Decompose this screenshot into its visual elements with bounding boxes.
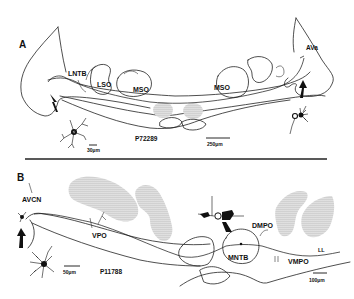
ll-label: LL xyxy=(318,247,325,253)
scale-label-a-section: 250µm xyxy=(207,141,223,147)
neuron-drawing-mntb-projection xyxy=(198,196,244,220)
stippled-region-2 xyxy=(135,185,172,241)
panel-b-leader-line xyxy=(29,183,32,193)
stippled-nucleus-left xyxy=(153,102,173,118)
right-cochlear-nucleus-outline xyxy=(284,18,333,97)
neuron-drawing-avcn xyxy=(18,212,26,222)
lntb-right-outline xyxy=(276,66,284,77)
scale-label-a-neuron: 30µm xyxy=(87,147,100,153)
neuron-drawing-bushy xyxy=(30,246,54,278)
vpo-label: VPO xyxy=(92,232,107,239)
stippled-region-1 xyxy=(69,177,139,222)
ventral-surface xyxy=(62,100,290,129)
ventral-bulge-b xyxy=(200,267,230,284)
mntb-label: MNTB xyxy=(228,254,248,261)
specimen-id-a: P72289 xyxy=(135,135,158,142)
vmpo-label: VMPO xyxy=(288,258,309,265)
neuroanatomy-figure: A LSO LNTB MSO MSO AVa xyxy=(0,0,354,299)
left-lobe-edge xyxy=(58,27,66,72)
specimen-id-b: P11788 xyxy=(100,268,122,275)
neuron-drawing-left xyxy=(60,118,88,148)
vmpo-collateral xyxy=(275,256,278,262)
dmpo-label: DMPO xyxy=(252,222,274,229)
tract-left-bulge xyxy=(28,220,34,248)
ava-label: AVa xyxy=(306,44,318,51)
right-lobe-edge xyxy=(293,18,296,52)
scale-label-b-section: 100µm xyxy=(309,277,325,283)
arrow-up-left-icon xyxy=(50,94,58,112)
scale-label-b-neuron: 50µm xyxy=(63,269,76,275)
lso-label: LSO xyxy=(97,81,112,88)
lso-right-outline xyxy=(248,57,273,83)
tract-lower-outline xyxy=(32,223,200,266)
panel-b-label: B xyxy=(17,172,24,183)
lntb-label: LNTB xyxy=(68,70,87,77)
nucleus-left-of-mntb xyxy=(179,237,214,266)
avcn-label: AVCN xyxy=(22,196,41,203)
axon-right-terminal xyxy=(300,56,304,58)
panel-a-label: A xyxy=(19,39,26,50)
stippled-region-ll xyxy=(301,196,334,237)
panel-a: A LSO LNTB MSO MSO AVa xyxy=(19,18,333,153)
arrow-up-avcn-icon xyxy=(17,228,26,248)
neuron-drawing-right xyxy=(290,106,308,134)
mso-left-label: MSO xyxy=(133,86,150,93)
stippled-nucleus-right xyxy=(183,103,203,119)
panel-b: B AVCN MNTB DMPO VMPO LL VPO xyxy=(17,172,350,286)
mntb-terminal xyxy=(240,243,243,246)
dmpo-collateral xyxy=(260,230,268,236)
mso-right-label: MSO xyxy=(214,84,231,91)
